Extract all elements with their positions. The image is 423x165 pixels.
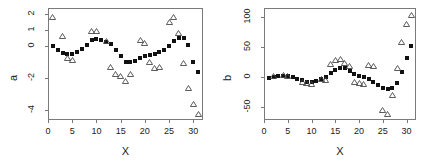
- data-point-fitted: [177, 36, 181, 40]
- data-point-observed: [370, 63, 377, 69]
- x-tick-label: 25: [159, 126, 179, 136]
- x-tick-label: 10: [302, 126, 322, 136]
- y-tick-mark: [261, 17, 264, 18]
- y-tick-mark: [261, 107, 264, 108]
- data-point-observed: [384, 111, 391, 117]
- data-point-fitted: [395, 81, 399, 85]
- data-point-fitted: [94, 37, 98, 41]
- x-tick-mark: [407, 120, 408, 123]
- data-point-observed: [360, 81, 367, 87]
- y-tick-label: -4: [26, 98, 36, 120]
- data-point-observed: [180, 60, 187, 66]
- x-tick-label: 25: [373, 126, 393, 136]
- x-tick-mark: [359, 120, 360, 123]
- data-point-fitted: [376, 83, 380, 87]
- data-point-observed: [170, 14, 177, 20]
- y-tick-label: 50: [242, 35, 252, 57]
- y-tick-mark: [45, 46, 48, 47]
- y-tick-mark: [45, 78, 48, 79]
- panel-b: b X 100500-50 051015202530: [212, 0, 423, 165]
- data-point-observed: [185, 85, 192, 91]
- data-point-observed: [284, 73, 291, 79]
- data-point-observed: [195, 111, 202, 117]
- data-point-fitted: [148, 53, 152, 57]
- x-tick-mark: [145, 120, 146, 123]
- data-point-observed: [389, 92, 396, 98]
- data-point-fitted: [138, 56, 142, 60]
- data-point-fitted: [338, 66, 342, 70]
- data-point-fitted: [333, 68, 337, 72]
- data-point-observed: [107, 64, 114, 70]
- x-tick-label: 30: [183, 126, 203, 136]
- data-point-observed: [141, 40, 148, 46]
- data-point-fitted: [362, 75, 366, 79]
- data-point-observed: [408, 12, 415, 18]
- data-point-fitted: [329, 71, 333, 75]
- data-point-fitted: [128, 60, 132, 64]
- data-point-observed: [270, 73, 277, 79]
- x-tick-label: 15: [111, 126, 131, 136]
- data-point-fitted: [348, 69, 352, 73]
- x-tick-label: 15: [325, 126, 345, 136]
- data-point-fitted: [157, 50, 161, 54]
- data-point-observed: [146, 59, 153, 65]
- data-point-observed: [190, 101, 197, 107]
- panel-a-x-axis-title: X: [48, 145, 203, 157]
- data-point-fitted: [381, 86, 385, 90]
- data-point-fitted: [124, 60, 128, 64]
- data-point-fitted: [51, 44, 55, 48]
- data-point-fitted: [85, 43, 89, 47]
- data-point-fitted: [357, 74, 361, 78]
- data-point-fitted: [390, 86, 394, 90]
- data-point-fitted: [75, 50, 79, 54]
- data-point-observed: [122, 78, 129, 84]
- x-tick-mark: [193, 120, 194, 123]
- panel-b-plot-area: [264, 8, 416, 120]
- data-point-observed: [93, 28, 100, 34]
- y-tick-mark: [261, 47, 264, 48]
- data-point-fitted: [90, 38, 94, 42]
- data-point-observed: [127, 71, 134, 77]
- data-point-fitted: [153, 52, 157, 56]
- y-tick-mark: [45, 110, 48, 111]
- data-point-observed: [398, 39, 405, 45]
- data-point-fitted: [367, 77, 371, 81]
- data-point-observed: [59, 33, 66, 39]
- x-tick-label: 30: [397, 126, 417, 136]
- data-point-fitted: [172, 39, 176, 43]
- data-point-fitted: [386, 87, 390, 91]
- x-tick-mark: [72, 120, 73, 123]
- data-point-observed: [69, 57, 76, 63]
- data-point-observed: [322, 77, 329, 83]
- x-tick-mark: [169, 120, 170, 123]
- data-point-observed: [156, 64, 163, 70]
- data-point-fitted: [114, 48, 118, 52]
- x-tick-label: 0: [254, 126, 274, 136]
- data-point-fitted: [80, 47, 84, 51]
- data-point-fitted: [133, 59, 137, 63]
- x-tick-label: 0: [38, 126, 58, 136]
- data-point-fitted: [352, 72, 356, 76]
- panel-b-x-axis-title: X: [264, 145, 416, 157]
- data-point-observed: [346, 63, 353, 69]
- data-point-fitted: [191, 60, 195, 64]
- data-point-fitted: [409, 44, 413, 48]
- data-point-fitted: [143, 54, 147, 58]
- y-tick-label: 0: [242, 65, 252, 87]
- data-point-fitted: [405, 56, 409, 60]
- data-point-observed: [103, 38, 110, 44]
- data-point-fitted: [56, 48, 60, 52]
- x-tick-label: 10: [86, 126, 106, 136]
- data-point-fitted: [186, 43, 190, 47]
- figure-root: a X 210-2-4 051015202530 b X 100500-50 0…: [0, 0, 423, 165]
- x-tick-mark: [288, 120, 289, 123]
- data-point-observed: [308, 81, 315, 87]
- data-point-observed: [394, 65, 401, 71]
- x-tick-mark: [312, 120, 313, 123]
- x-tick-label: 20: [135, 126, 155, 136]
- y-tick-mark: [261, 77, 264, 78]
- data-point-fitted: [196, 70, 200, 74]
- x-tick-mark: [335, 120, 336, 123]
- data-point-fitted: [167, 44, 171, 48]
- x-tick-mark: [48, 120, 49, 123]
